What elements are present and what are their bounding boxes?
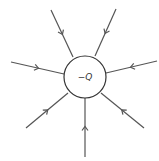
charge-label: −Q xyxy=(78,72,93,82)
field-diagram: −Q xyxy=(0,0,159,161)
